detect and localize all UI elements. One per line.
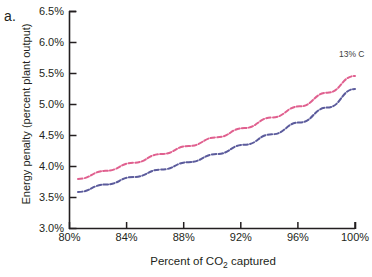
- plot-area: [0, 0, 372, 277]
- curve-lower: [78, 89, 355, 192]
- figure-panel-a: a. Energy penalty (percent plant output)…: [0, 0, 372, 277]
- series-annotation: 13% C: [339, 49, 365, 59]
- data-curves: [78, 76, 355, 192]
- curve-upper: [78, 76, 355, 179]
- axis-lines: [69, 11, 356, 229]
